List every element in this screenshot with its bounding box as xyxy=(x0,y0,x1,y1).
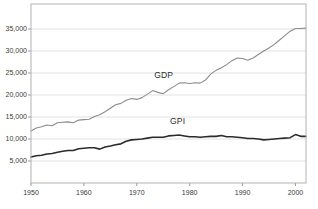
series-annotation-gdp: GDP xyxy=(154,70,173,80)
y-axis-tick-label: 25,000 xyxy=(1,69,27,76)
x-axis-tick-label: 1990 xyxy=(231,189,255,196)
plot-area-background xyxy=(31,4,306,183)
x-axis-tick-label: 2000 xyxy=(283,189,307,196)
x-axis-tick-label: 1960 xyxy=(72,189,96,196)
plot-background xyxy=(31,4,306,183)
y-axis-tick-label: 20,000 xyxy=(1,91,27,98)
series-annotation-gpi: GPI xyxy=(170,116,185,126)
x-axis-tick-label: 1950 xyxy=(19,189,43,196)
chart-container: 5,00010,00015,00020,00025,00030,00035,00… xyxy=(0,0,318,209)
y-axis-tick-label: 5,000 xyxy=(1,157,27,164)
line-chart-plot xyxy=(0,0,318,209)
y-axis-tick-label: 30,000 xyxy=(1,47,27,54)
y-axis-tick-label: 15,000 xyxy=(1,113,27,120)
y-axis-tick-label: 10,000 xyxy=(1,135,27,142)
x-axis-tick-label: 1970 xyxy=(125,189,149,196)
y-axis-tick-label: 35,000 xyxy=(1,25,27,32)
x-axis-tick-label: 1980 xyxy=(178,189,202,196)
